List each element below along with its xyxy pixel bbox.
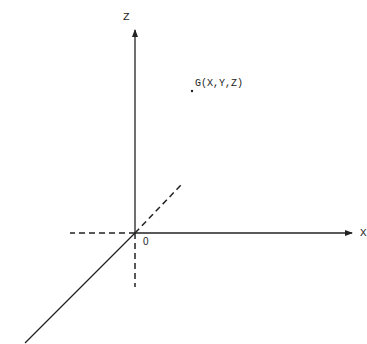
- z-axis-label: Z: [123, 12, 130, 23]
- point-g: [191, 90, 193, 92]
- axes-diagram: [0, 0, 367, 344]
- origin-label: 0: [143, 237, 149, 247]
- point-g-label: G(X,Y,Z): [195, 79, 243, 89]
- x-axis-label: X: [360, 228, 367, 239]
- negative-y-axis-dashed: [135, 185, 181, 233]
- y-axis: [25, 233, 135, 343]
